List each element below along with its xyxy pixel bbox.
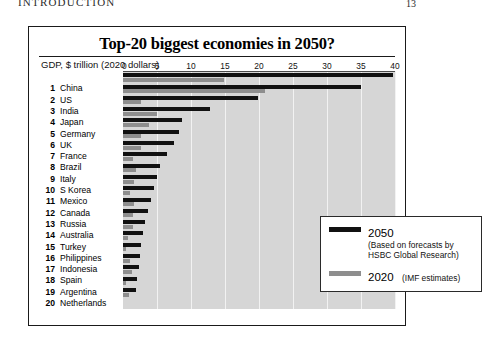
bar-2020 [123, 202, 134, 206]
bar-2050 [123, 209, 148, 213]
title-divider [39, 56, 395, 57]
bar-2050 [123, 243, 141, 247]
bar-group [123, 95, 395, 106]
legend-note-2050: (Based on forecasts by HSBC Global Resea… [368, 241, 473, 260]
legend-label-2050: 2050 [368, 227, 394, 239]
x-tick-label: 30 [322, 61, 331, 71]
bar-2020 [123, 134, 141, 138]
category-rank: 1 [39, 84, 55, 93]
bar-2020 [123, 213, 133, 217]
category-label-row: 20Netherlands [39, 298, 123, 309]
bar-group [123, 72, 395, 83]
legend-swatch-2050 [329, 227, 361, 232]
category-label-row: 11Mexico [39, 196, 123, 207]
category-label-row: 17Indonesia [39, 264, 123, 275]
bar-2020 [123, 157, 133, 161]
x-tick-label: 20 [254, 61, 263, 71]
category-rank: 12 [39, 209, 55, 218]
bar-2020 [123, 281, 126, 285]
category-name: Australia [60, 231, 123, 240]
chart-legend: 2050 (Based on forecasts by HSBC Global … [320, 216, 482, 292]
bar-2050 [123, 265, 139, 269]
bar-group [123, 83, 395, 94]
category-name: Russia [60, 220, 123, 229]
bar-group [123, 151, 395, 162]
category-name: Japan [60, 118, 123, 127]
bar-2020 [123, 270, 132, 274]
category-rank: 10 [39, 186, 55, 195]
bar-2050 [123, 85, 361, 89]
x-axis-ticks: 0510152025303540 [123, 61, 395, 71]
category-rank: 4 [39, 118, 55, 127]
category-labels: 1China2US3India4Japan5Germany6UK7France8… [39, 83, 123, 309]
plot-canvas: 0510152025303540 2050 (Based on forecast… [123, 71, 395, 309]
bar-2020 [123, 259, 130, 263]
category-name: S Korea [60, 186, 123, 195]
bar-group [123, 185, 395, 196]
bar-2020 [123, 78, 224, 82]
bar-2020 [123, 100, 141, 104]
category-label-row: 7France [39, 151, 123, 162]
bar-2050 [123, 130, 179, 134]
category-rank: 9 [39, 175, 55, 184]
bar-group [123, 174, 395, 185]
category-label-row: 8Brazil [39, 162, 123, 173]
category-label-row: 4Japan [39, 117, 123, 128]
category-label-row: 16Philippines [39, 252, 123, 263]
category-rank: 13 [39, 220, 55, 229]
bar-2050 [123, 118, 182, 122]
category-rank: 17 [39, 265, 55, 274]
category-rank: 14 [39, 231, 55, 240]
x-tick-label: 10 [186, 61, 195, 71]
category-rank: 5 [39, 130, 55, 139]
legend-note-2020: (IMF estimates) [402, 273, 460, 283]
bar-2020 [123, 168, 136, 172]
bar-2050 [123, 288, 136, 292]
category-label-row: 9Italy [39, 173, 123, 184]
category-name: Argentina [60, 288, 123, 297]
category-label-row: 19Argentina [39, 286, 123, 297]
bar-2050 [123, 141, 174, 145]
category-rank: 19 [39, 288, 55, 297]
category-rank: 7 [39, 152, 55, 161]
category-label-row: 6UK [39, 139, 123, 150]
category-name: Netherlands [60, 299, 123, 308]
bar-2050 [123, 152, 167, 156]
x-tick-label: 25 [288, 61, 297, 71]
figure-frame: Top-20 biggest economies in 2050? GDP, $… [28, 26, 406, 326]
bar-group [123, 106, 395, 117]
bar-2050 [123, 73, 393, 77]
bar-2050 [123, 164, 160, 168]
bar-2050 [123, 107, 210, 111]
bar-2050 [123, 254, 140, 258]
bar-2020 [123, 180, 134, 184]
category-rank: 3 [39, 107, 55, 116]
category-name: Spain [60, 276, 123, 285]
legend-swatch-2020 [329, 271, 361, 276]
bar-2020 [123, 123, 149, 127]
bar-group [123, 140, 395, 151]
x-tick-label: 35 [356, 61, 365, 71]
bar-2050 [123, 175, 157, 179]
category-rank: 15 [39, 243, 55, 252]
bar-group [123, 196, 395, 207]
category-name: Brazil [60, 163, 123, 172]
legend-row-2050: 2050 (Based on forecasts by HSBC Global … [329, 223, 473, 261]
bar-2050 [123, 277, 137, 281]
category-name: Italy [60, 175, 123, 184]
plot-area: 1China2US3India4Japan5Germany6UK7France8… [39, 71, 395, 309]
bar-group [123, 128, 395, 139]
category-name: Mexico [60, 197, 123, 206]
category-name: France [60, 152, 123, 161]
chart-title: Top-20 biggest economies in 2050? [39, 34, 395, 54]
category-rank: 2 [39, 96, 55, 105]
category-name: Indonesia [60, 265, 123, 274]
x-tick-label: 40 [390, 61, 399, 71]
category-name: Canada [60, 209, 123, 218]
category-name: US [60, 96, 123, 105]
category-label-row: 3India [39, 106, 123, 117]
bar-2020 [123, 236, 128, 240]
category-label-row: 5Germany [39, 128, 123, 139]
x-tick-label: 0 [122, 61, 127, 71]
bar-2020 [123, 146, 141, 150]
